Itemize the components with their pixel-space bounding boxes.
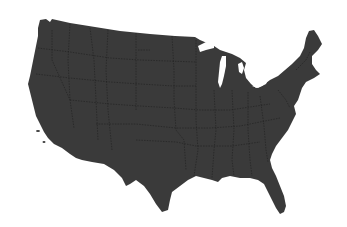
channel-islands (43, 141, 46, 143)
us-map (0, 0, 347, 227)
channel-islands (36, 130, 40, 132)
